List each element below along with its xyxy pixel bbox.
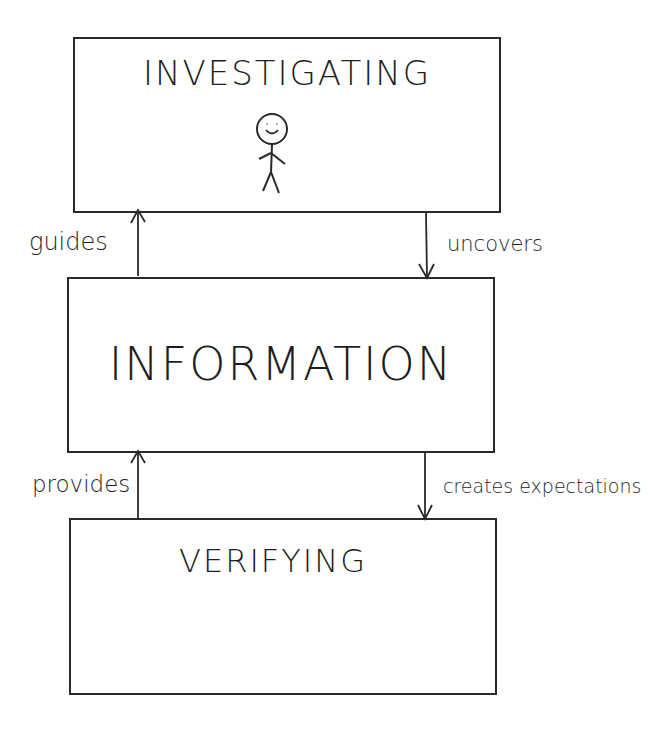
label-uncovers: uncovers <box>447 232 543 256</box>
investigating-title: INVESTIGATING <box>75 53 499 93</box>
label-guides: guides <box>29 228 108 256</box>
label-provides: provides <box>32 471 130 497</box>
information-title: INFORMATION <box>69 337 493 391</box>
verifying-title: VERIFYING <box>51 542 495 580</box>
arrow-uncovers <box>419 213 434 278</box>
arrow-creates-expectations <box>418 452 432 519</box>
stick-figure-icon <box>247 109 307 199</box>
arrow-guides <box>131 210 145 276</box>
arrow-provides <box>131 451 145 518</box>
label-creates-expectations: creates expectations <box>443 475 641 497</box>
verifying-box: VERIFYING <box>69 518 497 695</box>
information-box: INFORMATION <box>67 277 495 453</box>
investigating-box: INVESTIGATING <box>73 37 501 213</box>
